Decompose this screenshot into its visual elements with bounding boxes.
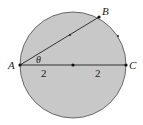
label-seg-right: 2: [95, 67, 101, 79]
label-b: B: [102, 5, 109, 17]
chord-midpoint: [69, 34, 71, 36]
point-b: [97, 15, 100, 18]
circle-diagram: A B C θ 2 2: [0, 0, 143, 125]
label-theta: θ: [36, 54, 41, 65]
label-c: C: [129, 59, 137, 71]
point-c: [124, 63, 127, 66]
label-seg-left: 2: [41, 67, 47, 79]
point-a: [18, 63, 21, 66]
label-a: A: [7, 59, 15, 71]
center-point: [71, 63, 74, 66]
arc-mark: [117, 35, 119, 37]
